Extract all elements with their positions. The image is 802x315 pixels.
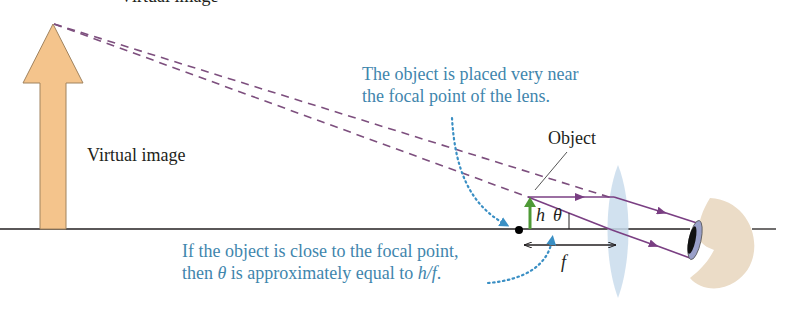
focal-point-dot [515, 226, 523, 234]
annotation-bottom: If the object is close to the focal poin… [182, 240, 458, 284]
object-leader-line [535, 152, 567, 190]
virtual-image-label: Virtual image [87, 145, 185, 166]
height-h-label: h [536, 205, 545, 226]
annotation-top: The object is placed very near the focal… [362, 63, 578, 107]
annotation-top-line1: The object is placed very near [362, 63, 578, 85]
annotation-top-line2: the focal point of the lens. [362, 85, 578, 107]
annotation-bottom-pre: then [182, 263, 218, 283]
cropped-heading: Virtual image [120, 0, 218, 7]
eye-icon [685, 198, 754, 288]
object-arrow-icon [524, 197, 536, 229]
angle-theta-label: θ [553, 205, 562, 226]
virtual-image-arrow-icon [23, 24, 83, 229]
magnifier-diagram: Virtual image Virtual image Object h θ f… [0, 0, 802, 315]
annotation-bottom-mid: is approximately equal to [226, 263, 417, 283]
virtual-rays-dashed [54, 24, 612, 198]
annotation-bottom-post: . [437, 263, 442, 283]
focal-length-f-label: f [561, 252, 566, 273]
object-label: Object [548, 128, 596, 149]
annotation-bottom-line1: If the object is close to the focal poin… [182, 240, 458, 262]
annotation-bottom-ratio: h/f [418, 263, 437, 283]
annotation-bottom-line2: then θ is approximately equal to h/f. [182, 262, 458, 284]
